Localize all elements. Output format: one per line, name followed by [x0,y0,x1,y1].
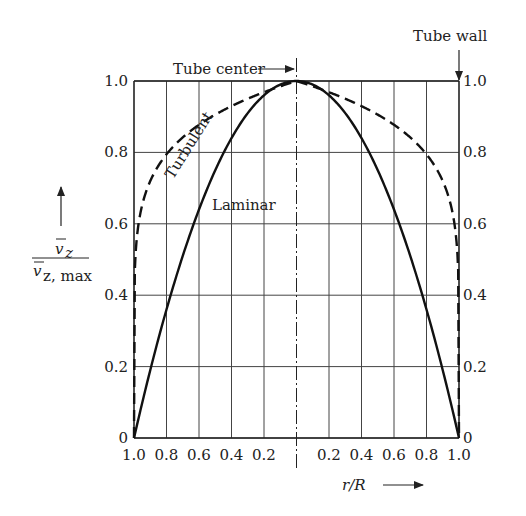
y-tick-label: 0.2 [463,358,487,376]
x-tick-label: 0.8 [155,446,179,464]
x-axis-label: r/R [342,476,423,494]
y-tick-label: 0.2 [104,358,128,376]
turbulent-label: Turbulent [161,109,216,183]
x-tick-label: 1.0 [122,446,146,464]
y-tick-label: 0.8 [463,143,487,161]
x-tick-label: 0.8 [415,446,439,464]
laminar-label: Laminar [212,196,277,214]
y-tick-label: 0.8 [104,143,128,161]
x-tick-label: 0.2 [317,446,341,464]
y-label-numerator-sub: z [64,244,73,262]
y-axis-ticks-left: 00.20.40.60.81.0 [104,72,128,447]
y-tick-label: 0 [118,429,128,447]
velocity-profile-chart: 00.20.40.60.81.0 00.20.40.60.81.0 1.00.8… [0,0,526,516]
x-tick-label: 0.6 [187,446,211,464]
y-axis-ticks-right: 00.20.40.60.81.0 [463,72,487,447]
y-tick-label: 0.4 [463,286,487,304]
x-tick-label: 0.6 [382,446,406,464]
x-tick-label: 0.4 [220,446,244,464]
x-tick-label: 0.2 [252,446,276,464]
y-tick-label: 1.0 [104,72,128,90]
y-tick-label: 1.0 [463,72,487,90]
y-tick-label: 0.4 [104,286,128,304]
x-tick-label: 0.4 [350,446,374,464]
y-tick-label: 0.6 [104,215,128,233]
y-tick-label: 0.6 [463,215,487,233]
x-label-text: r/R [342,476,366,494]
tube-wall-label: Tube wall [413,27,487,45]
y-label-numerator: v [55,240,64,258]
x-tick-label: 1.0 [447,446,471,464]
y-axis-label: v z v z, max [32,187,93,285]
y-label-denominator: v [33,262,42,280]
tube-center-label: Tube center [173,60,266,78]
y-tick-label: 0 [463,429,473,447]
y-label-denominator-sub: z, max [43,267,93,285]
